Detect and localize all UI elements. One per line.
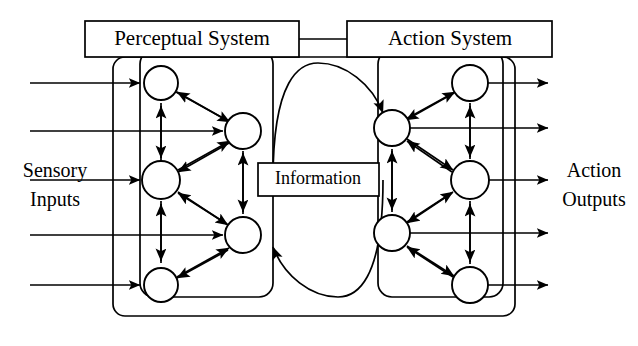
node-a-inner-1[interactable] [374, 110, 410, 146]
diagram-canvas: Perceptual System Action System Informat… [0, 0, 638, 346]
node-p-outer-3[interactable] [144, 268, 178, 302]
edge-a-inner2-outer3 [407, 246, 454, 276]
node-p-outer-1[interactable] [144, 66, 178, 100]
edge-a-inner1-outer2 [407, 139, 453, 170]
edge-a-outer2-inner1 [407, 141, 452, 172]
node-p-inner-1[interactable] [225, 113, 261, 149]
edge-p-inner2-outer2 [178, 193, 227, 224]
node-a-outer-2[interactable] [451, 161, 489, 199]
action-system-label: Action System [388, 26, 512, 50]
arc-action-to-perception [273, 180, 383, 297]
edge-p-inner1-outer2 [178, 143, 229, 172]
edge-p-outer3-inner2 [177, 248, 229, 277]
node-p-outer-2[interactable] [142, 161, 180, 199]
edge-a-outer3-inner2 [407, 247, 453, 277]
action-outputs-label: Action Outputs [562, 159, 626, 211]
action-outputs-line-2: Outputs [562, 188, 626, 211]
action-system-box[interactable]: Action System [347, 21, 552, 57]
node-a-outer-3[interactable] [452, 267, 488, 303]
edge-a-outer2-inner2 [407, 193, 452, 223]
edge-p-inner2-outer3 [177, 250, 228, 278]
node-p-inner-2[interactable] [225, 217, 261, 253]
action-outputs-line-1: Action [567, 159, 621, 181]
sensory-inputs-line-2: Inputs [30, 188, 80, 211]
edge-p-outer2-inner1 [178, 141, 230, 170]
perceptual-system-box[interactable]: Perceptual System [85, 21, 299, 57]
diagram-svg: Perceptual System Action System Informat… [0, 0, 638, 346]
edge-p-inner1-outer1 [177, 92, 228, 121]
sensory-inputs-label: Sensory Inputs [23, 159, 87, 211]
perceptual-system-label: Perceptual System [114, 26, 270, 50]
node-a-inner-2[interactable] [374, 215, 410, 251]
information-box[interactable]: Information [258, 163, 379, 196]
information-label: Information [275, 168, 361, 188]
sensory-inputs-line-1: Sensory [23, 159, 87, 182]
node-a-outer-1[interactable] [452, 65, 488, 101]
edge-a-outer1-inner1 [406, 93, 454, 120]
